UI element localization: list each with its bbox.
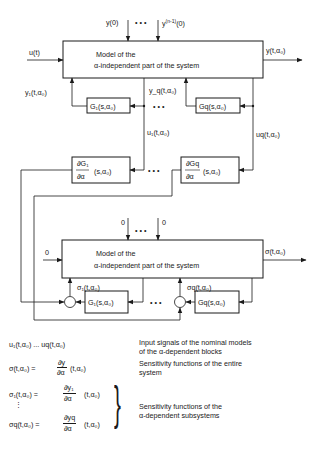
u-input-label: u(t) bbox=[29, 48, 40, 57]
junction-dot-uq bbox=[252, 105, 254, 107]
yn1-label: y(n-1)(0) bbox=[162, 18, 185, 28]
top-model-block bbox=[63, 41, 263, 78]
legend-sensitivity-entire-description: Sensitivity functions of the entire syst… bbox=[139, 359, 242, 377]
legend-brace: } bbox=[114, 380, 121, 426]
sigmaq-label: σq(t,α₀) bbox=[187, 283, 211, 292]
legend-sigma1-den: ∂α bbox=[64, 394, 72, 403]
dgq-tail: (s,α₀) bbox=[203, 167, 221, 176]
top-gq-text: Gq(s,α₀) bbox=[199, 102, 226, 111]
legend-sigma-den: ∂α bbox=[57, 368, 65, 377]
zero-ic-label-1: 0 bbox=[121, 218, 125, 227]
top-g1-text: G₁(s,α₀) bbox=[90, 102, 116, 111]
dg1-numerator: ∂G₁ bbox=[77, 159, 89, 168]
top-dots: • • • bbox=[153, 102, 165, 111]
legend-sigma-tail: (t,α₀) bbox=[70, 364, 86, 373]
legend-sigmaq-den: ∂α bbox=[64, 424, 72, 433]
legend-inputs-description: Input signals of the nominal models of t… bbox=[139, 338, 252, 356]
sigma1-label: σ₁(t,α₀) bbox=[77, 283, 100, 292]
junction-dot-u1 bbox=[143, 105, 145, 107]
bottom-model-block bbox=[62, 240, 263, 278]
zero-input-label: 0 bbox=[45, 248, 49, 257]
yq-feedback-line bbox=[186, 78, 196, 106]
zero-ic-label-2: 0 bbox=[162, 218, 166, 227]
legend-sigmaq-tail: (t,α₀) bbox=[84, 420, 100, 429]
y0-label: y(0) bbox=[106, 18, 118, 27]
sens-dots: • • • bbox=[148, 166, 160, 175]
y1-label: y₁(t,α₀) bbox=[25, 88, 47, 97]
bottom-dots: • • • bbox=[150, 298, 162, 307]
legend-u-symbols: u₁(t,α₀) ... uq(t,α₀) bbox=[9, 340, 65, 349]
y-output-label: y(t,α₀) bbox=[266, 46, 286, 55]
dg1-tail: (s,α₀) bbox=[94, 167, 112, 176]
dg1-denominator: ∂α bbox=[77, 172, 85, 181]
legend-sensitivity-subsystems-description: Sensitivity functions of the α-dependent… bbox=[139, 402, 222, 420]
legend-vdots: ⋮ bbox=[15, 400, 22, 409]
legend-sigmaq-num: ∂yq bbox=[64, 413, 75, 422]
legend-sigma1-num: ∂y₁ bbox=[64, 383, 74, 392]
legend-sigma-lhs: σ(t,α₀) = bbox=[9, 364, 36, 373]
bottom-uq-line bbox=[239, 278, 252, 302]
ic-dots: • • • bbox=[135, 18, 147, 27]
dgq-denominator: ∂α bbox=[186, 172, 194, 181]
dg1-output-line bbox=[21, 170, 72, 302]
sum-junction-1 bbox=[65, 297, 76, 308]
top-block-line1: Model of the bbox=[96, 50, 136, 59]
legend-sigma-num: ∂y bbox=[58, 358, 65, 367]
bottom-block-line1: Model of the bbox=[96, 249, 136, 258]
uq-label: uq(t,α₀) bbox=[256, 130, 280, 139]
bottom-block-line2: α-independent part of the system bbox=[94, 261, 199, 270]
legend-sigma1-lhs: σ₁(t,α₀) = bbox=[9, 390, 38, 399]
bottom-g1-text: G₁(s,α₀) bbox=[88, 298, 114, 307]
legend-sigmaq-lhs: σq(t,α₀) = bbox=[9, 420, 40, 429]
sigma-output-label: σ(t,α₀) bbox=[265, 247, 285, 256]
legend-sigma1-tail: (t,α₀) bbox=[84, 390, 100, 399]
u1-label: u₁(t,α₀) bbox=[147, 128, 169, 137]
bottom-ic-dots: • • • bbox=[135, 226, 147, 235]
y1-feedback-line bbox=[72, 78, 87, 106]
yq-label: y_q(t,α₀) bbox=[149, 86, 177, 95]
bottom-gq-text: Gq(s,α₀) bbox=[198, 298, 225, 307]
sum-junction-q bbox=[175, 297, 186, 308]
bottom-u1-line bbox=[128, 278, 143, 302]
dgq-numerator: ∂Gq bbox=[186, 159, 199, 168]
block-diagram: y(0) • • • y(n-1)(0) u(t) y(t,α₀) Model … bbox=[0, 0, 324, 452]
top-block-line2: α-independent part of the system bbox=[94, 61, 199, 70]
